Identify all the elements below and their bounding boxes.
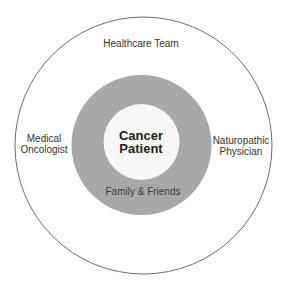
medical-oncologist-line1: Medical (20, 133, 67, 144)
cancer-patient-line2: Patient (119, 142, 163, 155)
medical-oncologist-label: Medical Oncologist (20, 133, 67, 155)
healthcare-team-label: Healthcare Team (103, 38, 178, 49)
family-friends-label: Family & Friends (105, 186, 180, 197)
medical-oncologist-line2: Oncologist (20, 144, 67, 155)
naturopathic-physician-line1: Naturopathic (213, 135, 270, 146)
cancer-patient-label: Cancer Patient (119, 129, 163, 155)
naturopathic-physician-label: Naturopathic Physician (213, 135, 270, 157)
naturopathic-physician-line2: Physician (213, 146, 270, 157)
